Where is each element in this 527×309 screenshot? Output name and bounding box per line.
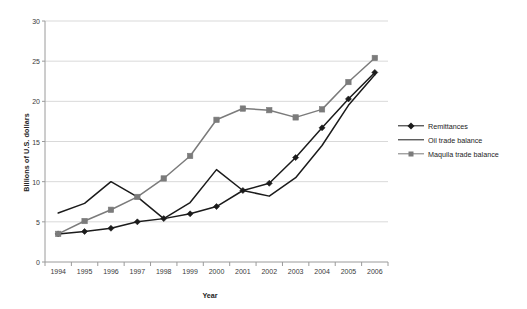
legend-key-icon (398, 134, 424, 146)
y-tick-label: 0 (14, 259, 40, 266)
x-tick-label: 2003 (288, 268, 304, 275)
x-tick-label: 1997 (130, 268, 146, 275)
y-tick-label: 30 (14, 18, 40, 25)
series-line (58, 75, 375, 219)
data-point-marker (346, 79, 351, 84)
x-axis-title: Year (0, 291, 420, 300)
legend-key-icon (398, 120, 424, 132)
legend-item[interactable]: Remittances (398, 119, 499, 133)
y-tick-label: 10 (14, 178, 40, 185)
x-tick-label: 2006 (367, 268, 383, 275)
legend-label: Remittances (428, 122, 468, 131)
y-tick-label: 25 (14, 58, 40, 65)
data-point-marker (319, 107, 324, 112)
x-tick-label: 2002 (261, 268, 277, 275)
axes (42, 21, 388, 266)
y-tick-label: 15 (14, 138, 40, 145)
data-point-marker (214, 117, 219, 122)
x-tick-label: 1999 (182, 268, 198, 275)
legend-item[interactable]: Maquila trade balance (398, 147, 499, 161)
x-tick-label: 1998 (156, 268, 172, 275)
x-tick-label: 2004 (314, 268, 330, 275)
legend-label: Oil trade balance (428, 136, 482, 145)
diamond-marker-icon (407, 122, 414, 129)
x-tick-label: 1996 (103, 268, 119, 275)
x-tick-label: 1995 (77, 268, 93, 275)
y-tick-label: 5 (14, 218, 40, 225)
data-point-marker (108, 207, 113, 212)
data-point-marker (55, 231, 60, 236)
data-point-marker (135, 194, 140, 199)
data-point-marker (82, 228, 88, 234)
data-point-marker (372, 55, 377, 60)
x-tick-label: 1994 (50, 268, 66, 275)
data-point-marker (267, 107, 272, 112)
data-point-marker (187, 211, 193, 217)
x-tick-label: 2001 (235, 268, 251, 275)
legend-key-icon (398, 148, 424, 160)
x-tick-label: 2000 (209, 268, 225, 275)
legend-label: Maquila trade balance (428, 150, 499, 159)
data-point-marker (108, 225, 114, 231)
series-remittances (55, 69, 378, 236)
series-oil-trade-balance (58, 75, 375, 219)
x-tick-label: 2005 (341, 268, 357, 275)
data-point-marker (293, 115, 298, 120)
y-tick-label: 20 (14, 98, 40, 105)
chart-legend: RemittancesOil trade balanceMaquila trad… (398, 119, 499, 161)
square-marker-icon (409, 152, 414, 157)
data-point-marker (240, 106, 245, 111)
data-point-marker (82, 218, 87, 223)
line-chart: Billions of U.S. dollars Year 0510152025… (0, 0, 527, 309)
data-point-marker (134, 219, 140, 225)
legend-item[interactable]: Oil trade balance (398, 133, 499, 147)
data-point-marker (161, 176, 166, 181)
data-point-marker (187, 153, 192, 158)
